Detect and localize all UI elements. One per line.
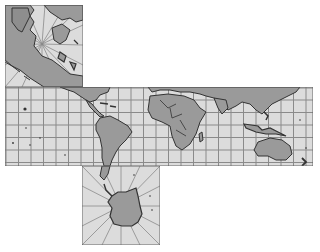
world-map: World map in cube-face layout bbox=[0, 0, 320, 252]
antarctic-panel bbox=[82, 166, 160, 245]
madagascar-land bbox=[199, 132, 203, 142]
arctic-panel bbox=[5, 5, 83, 87]
equatorial-panel bbox=[5, 87, 313, 166]
